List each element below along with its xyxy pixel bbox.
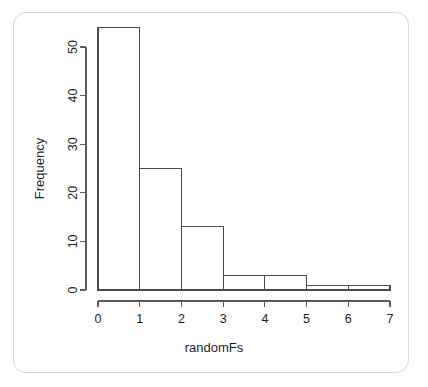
x-tick-label-6: 6 [345,312,352,326]
x-tick-label-5: 5 [303,312,310,326]
bar-1-2 [140,169,182,291]
x-axis-title: randomFs [185,340,244,355]
y-tick-label-20: 20 [66,186,80,200]
x-tick-label-4: 4 [261,312,268,326]
bar-5-6 [307,285,349,290]
x-tick-label-7: 7 [387,312,394,326]
bar-0-1 [98,28,140,290]
histogram-svg: 01020304050 01234567 Frequency randomFs [0,0,428,387]
histogram-plot: 01020304050 01234567 Frequency randomFs [0,0,428,387]
y-tick-label-50: 50 [66,40,80,54]
bar-3-4 [223,275,265,290]
y-tick-label-10: 10 [66,234,80,248]
y-axis-title: Frequency [32,137,47,199]
y-tick-label-40: 40 [66,89,80,103]
y-tick-label-0: 0 [66,286,80,293]
x-tick-label-0: 0 [95,312,102,326]
bars-group [98,28,390,290]
x-axis [98,301,390,307]
x-tick-label-3: 3 [220,312,227,326]
y-tick-labels: 01020304050 [66,40,80,293]
x-tick-label-1: 1 [136,312,143,326]
x-tick-label-2: 2 [178,312,185,326]
bar-4-5 [265,275,307,290]
x-tick-labels: 01234567 [95,312,394,326]
y-axis [80,47,86,290]
y-tick-label-30: 30 [66,137,80,151]
bar-2-3 [181,227,223,290]
bar-6-7 [348,285,390,290]
